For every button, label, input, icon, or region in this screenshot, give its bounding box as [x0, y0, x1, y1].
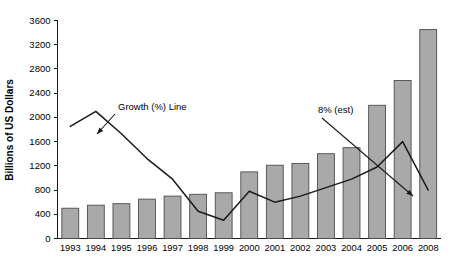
bar-2008	[420, 30, 437, 239]
y-tick-label: 1600	[29, 136, 50, 147]
y-tick-label: 2400	[29, 87, 50, 98]
bar-2000	[241, 172, 258, 239]
bar-chart-figure: Billions of US Dollars 04008001200160020…	[0, 0, 450, 277]
x-tick-label-1995: 1995	[111, 243, 132, 253]
eight-percent-est-annotation-text: 8% (est)	[318, 104, 353, 115]
bar-2003	[318, 154, 335, 239]
bar-2002	[292, 163, 309, 238]
growth-line-annotation-text: Growth (%) Line	[118, 101, 187, 112]
x-tick-label-2004: 2004	[341, 243, 362, 253]
x-tick-label-1999: 1999	[213, 243, 234, 253]
x-tick-label-2005: 2005	[367, 243, 388, 253]
y-axis-ticks: 04008001200160020002400280032003600	[29, 15, 57, 244]
bar-series	[62, 30, 437, 239]
y-axis-title-group: Billions of US Dollars	[4, 79, 15, 181]
bar-1996	[139, 199, 156, 238]
x-axis-ticks: 1993199419951996199719981999200020012002…	[60, 243, 439, 253]
bar-1994	[87, 205, 104, 238]
x-tick-label-1997: 1997	[162, 243, 183, 253]
x-tick-label-2001: 2001	[264, 243, 285, 253]
bar-1999	[215, 193, 232, 239]
x-tick-label-2003: 2003	[316, 243, 337, 253]
bar-1997	[164, 196, 181, 238]
y-tick-label: 400	[35, 208, 51, 219]
x-tick-label-1994: 1994	[86, 243, 107, 253]
x-tick-label-1996: 1996	[137, 243, 158, 253]
x-tick-label-1993: 1993	[60, 243, 81, 253]
x-tick-label-2000: 2000	[239, 243, 260, 253]
bar-2004	[343, 148, 360, 239]
y-tick-label: 2000	[29, 111, 50, 122]
y-tick-label: 3200	[29, 39, 50, 50]
y-tick-label: 1200	[29, 160, 50, 171]
chart-canvas: Billions of US Dollars 04008001200160020…	[0, 0, 450, 277]
x-tick-label-2006: 2006	[392, 243, 413, 253]
y-tick-label: 3600	[29, 15, 50, 26]
bar-2005	[369, 105, 386, 238]
x-tick-label-1998: 1998	[188, 243, 209, 253]
bar-2006	[394, 80, 411, 238]
y-tick-label: 800	[35, 184, 51, 195]
bar-1993	[62, 208, 79, 238]
x-tick-label-2002: 2002	[290, 243, 311, 253]
bar-1998	[190, 194, 207, 238]
x-tick-label-2008: 2008	[418, 243, 439, 253]
y-tick-label: 2800	[29, 63, 50, 74]
y-tick-label: 0	[45, 233, 50, 244]
y-axis-title: Billions of US Dollars	[4, 79, 15, 181]
bar-1995	[113, 204, 130, 239]
